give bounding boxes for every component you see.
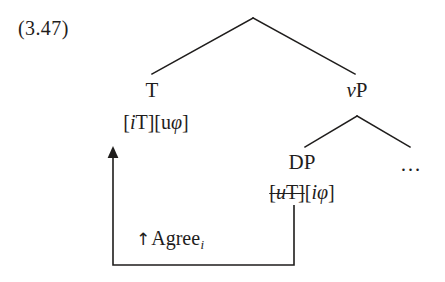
agree-text: Agree — [151, 227, 200, 249]
node-label-dp: DP — [289, 152, 316, 173]
branch-root-to-vp — [253, 18, 355, 74]
node-label-vp: vP — [346, 80, 367, 101]
feature-bundle-t: [iT][uφ] — [123, 112, 189, 132]
node-label-ellipsis: … — [400, 154, 422, 175]
syntax-tree-figure: (3.47) T [iT][uφ] vP DP [uT][iφ] … ↑Agre… — [0, 0, 445, 282]
feature-bundle-dp: [uT][iφ] — [269, 182, 335, 202]
agree-arrowhead-icon — [108, 146, 119, 158]
up-arrow-icon: ↑ — [136, 229, 151, 249]
tree-lines — [0, 0, 445, 282]
branch-vp-to-dp — [305, 116, 357, 147]
node-label-t: T — [146, 80, 159, 101]
branch-vp-to-ellipsis — [357, 116, 410, 147]
agree-relation-label: ↑Agreei — [136, 228, 204, 251]
branch-root-to-t — [152, 18, 253, 74]
agree-subscript: i — [200, 237, 204, 252]
